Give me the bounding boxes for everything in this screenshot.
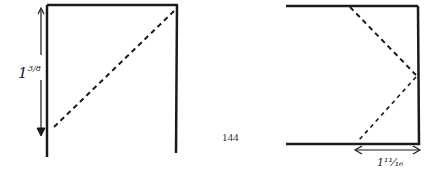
arrowhead-down-icon <box>37 128 45 136</box>
diagonal-fold-line <box>54 11 174 127</box>
upper-fold-line <box>350 7 416 75</box>
left-diagram <box>37 5 178 157</box>
left-dimension-whole: 1 <box>18 64 28 82</box>
lower-fold-line <box>359 77 416 140</box>
left-dimension-fraction: 3/8 <box>28 64 41 73</box>
right-edge <box>176 5 177 153</box>
right-edge <box>418 6 419 145</box>
page-number: 144 <box>222 131 239 143</box>
fold-diagram: 1 3/8 144 1¹¹⁄₁₆ <box>0 0 424 169</box>
right-dimension-label: 1¹¹⁄₁₆ <box>377 156 404 169</box>
right-diagram <box>286 6 420 154</box>
